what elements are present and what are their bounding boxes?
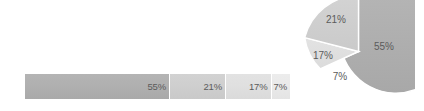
stacked-bar-chart: 55% 21% 17% 7% [25, 74, 290, 99]
pie-slice-label: 17% [313, 50, 333, 61]
bar-segment-label: 7% [273, 81, 290, 92]
pie-chart: 55% 7% 17% 21% [302, 0, 415, 108]
pie-slice-label: 7% [333, 71, 348, 82]
bar-segment-label: 17% [249, 81, 271, 92]
bar-segment[interactable]: 7% [271, 74, 290, 99]
pie-chart-svg: 55% 7% 17% 21% [302, 0, 415, 108]
bar-segment[interactable]: 17% [225, 74, 271, 99]
pie-slice-label: 55% [374, 41, 394, 52]
bar-segment-label: 21% [203, 81, 225, 92]
bar-segment-label: 55% [147, 81, 169, 92]
bar-segment[interactable]: 21% [169, 74, 225, 99]
pie-slices [305, 0, 415, 93]
pie-slice-label: 21% [326, 14, 346, 25]
bar-segment[interactable]: 55% [25, 74, 169, 99]
